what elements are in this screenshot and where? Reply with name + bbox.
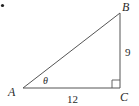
- side-length-BC: 9: [125, 46, 131, 58]
- vertex-label-A: A: [7, 85, 16, 99]
- vertex-label-B: B: [122, 0, 130, 14]
- vertex-label-C: C: [120, 90, 129, 104]
- side-length-AC: 12: [67, 93, 78, 105]
- side-AB-hypotenuse: [23, 13, 120, 88]
- right-angle-marker-icon: [112, 80, 120, 88]
- right-triangle-diagram: A B C θ 12 9: [0, 0, 139, 106]
- angle-label-theta: θ: [43, 75, 48, 86]
- bullet-dot-icon: [1, 4, 4, 7]
